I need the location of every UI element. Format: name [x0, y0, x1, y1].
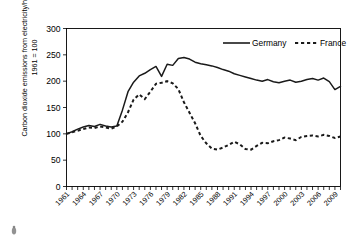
- scan-artifact: [12, 226, 16, 235]
- chart-figure: Carbon dioxide emissions from electricit…: [0, 0, 358, 248]
- plot-frame: [67, 29, 341, 187]
- y-tick-label: 0: [56, 182, 61, 192]
- y-tick-label: 300: [46, 24, 61, 34]
- y-tick-label: 200: [46, 76, 61, 86]
- y-tick-label: 250: [46, 50, 61, 60]
- x-tick-label: 1964: [70, 190, 88, 208]
- legend-label-germany: Germany: [252, 38, 287, 48]
- x-tick-label: 2006: [305, 190, 323, 208]
- y-tick-label: 100: [46, 129, 61, 139]
- x-tick-label: 2009: [322, 190, 340, 208]
- x-tick-label: 1979: [154, 190, 172, 208]
- y-tick-label: 150: [46, 103, 61, 113]
- x-tick-label: 1973: [121, 190, 139, 208]
- x-tick-label: 1994: [238, 190, 256, 208]
- x-tick-label: 1982: [171, 190, 189, 208]
- legend-label-france: France: [320, 38, 346, 48]
- x-tick-label: 1988: [204, 190, 222, 208]
- x-tick-label: 1997: [255, 190, 273, 208]
- x-tick-label: 2000: [271, 190, 289, 208]
- x-axis-labels: 1961196419671970197319761979198219851988…: [53, 190, 339, 208]
- y-axis-label-line2: 1961 = 100: [29, 0, 39, 143]
- y-axis-ticks: 050100150200250300: [46, 24, 66, 192]
- x-tick-label: 1970: [104, 190, 122, 208]
- x-tick-label: 2003: [288, 190, 306, 208]
- series-line-germany: [67, 57, 341, 133]
- x-tick-label: 1985: [188, 190, 206, 208]
- y-axis-label: Carbon dioxide emissions from electricit…: [20, 0, 39, 143]
- x-tick-label: 1961: [53, 190, 71, 208]
- x-tick-label: 1991: [221, 190, 239, 208]
- x-tick-label: 1976: [137, 190, 155, 208]
- chart-svg: 050100150200250300 196119641967197019731…: [0, 0, 358, 248]
- x-tick-label: 1967: [87, 190, 105, 208]
- chart-legend: Germany France: [223, 38, 346, 48]
- y-axis-label-line1: Carbon dioxide emissions from electricit…: [20, 0, 30, 143]
- series-line-france: [67, 81, 341, 149]
- y-tick-label: 50: [51, 155, 61, 165]
